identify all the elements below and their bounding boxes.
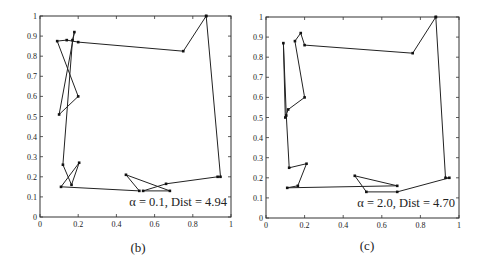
tour-point [282,42,285,45]
y-tick-label: 0.1 [27,193,37,202]
tour-point [365,191,368,194]
tour-point [62,163,65,166]
tour-point [56,40,59,43]
y-tick-label: 0 [259,214,263,223]
tour-line [283,17,449,192]
tour-point [411,52,414,55]
tour-point [77,41,80,44]
annotation-label: α = 2.0, Dist = 4.70 [357,196,455,210]
tour-point [305,162,308,165]
tour-point [73,31,76,34]
y-tick-label: 0.2 [253,174,263,183]
tour-point [182,50,185,53]
x-tick-label: 0.6 [377,221,387,230]
y-tick-label: 0.5 [27,113,37,122]
annotation-label: α = 0.1, Dist = 4.94 [129,195,227,209]
tour-point [396,185,399,188]
tour-point [294,40,297,43]
y-tick-label: 0.9 [27,32,37,41]
y-tick-label: 0.3 [253,154,263,163]
y-tick-label: 0.7 [27,72,37,81]
y-tick-label: 0.9 [253,33,263,42]
tour-point [303,44,306,47]
y-tick-label: 0.2 [27,173,37,182]
y-tick-label: 0.7 [253,73,263,82]
tour-point [165,183,168,186]
tour-point [448,177,451,180]
tour-point [138,190,141,193]
panel-b: 00.20.40.60.8100.10.20.30.40.50.60.70.80… [27,12,233,255]
tour-point [444,177,447,180]
y-tick-label: 1 [33,12,37,21]
x-tick-label: 0.4 [338,221,348,230]
y-tick-label: 0.8 [27,52,37,61]
panel-c: 00.20.40.60.8100.10.20.30.40.50.60.70.80… [253,13,461,253]
y-tick-label: 1 [259,13,263,22]
y-tick-label: 0.5 [253,114,263,123]
x-tick-label: 0.4 [111,220,121,229]
tour-point [205,15,208,18]
panel-caption: (b) [130,240,145,255]
tour-point [70,184,73,187]
x-tick-label: 0.6 [150,220,160,229]
tour-point [216,176,219,179]
tour-point [297,185,300,188]
panel-caption: (c) [360,238,374,253]
x-tick-label: 0.2 [300,221,310,230]
x-tick-label: 0.8 [188,220,198,229]
tour-point [169,190,172,193]
figure: 00.20.40.60.8100.10.20.30.40.50.60.70.80… [0,0,484,269]
y-tick-label: 0.4 [253,134,263,143]
y-tick-label: 0 [33,213,37,222]
tour-point [299,32,302,35]
tour-point [435,16,438,19]
tour-point [303,96,306,99]
tour-point [71,39,74,42]
x-tick-label: 0 [38,220,42,229]
tour-point [78,161,81,164]
y-tick-label: 0.4 [27,133,37,142]
tour-point [58,113,61,116]
tour-point [77,95,80,98]
tour-point [60,186,63,189]
tour-point [142,190,145,193]
tour-point [285,114,288,117]
tour-point [219,176,222,179]
tour-point [396,191,399,194]
tour-point [125,173,128,176]
y-tick-label: 0.6 [253,93,263,102]
tour-point [65,39,68,42]
tour-point [353,174,356,177]
y-tick-label: 0.3 [27,153,37,162]
x-tick-label: 0.2 [73,220,83,229]
tour-point [286,187,289,190]
y-tick-label: 0.8 [253,53,263,62]
y-tick-label: 0.6 [27,92,37,101]
tour-line [57,16,220,191]
tour-point [287,108,290,111]
y-tick-label: 0.1 [253,194,263,203]
x-tick-label: 0 [264,221,268,230]
x-tick-label: 1 [229,220,233,229]
x-tick-label: 0.8 [415,221,425,230]
x-tick-label: 1 [457,221,461,230]
tour-point [288,166,291,169]
